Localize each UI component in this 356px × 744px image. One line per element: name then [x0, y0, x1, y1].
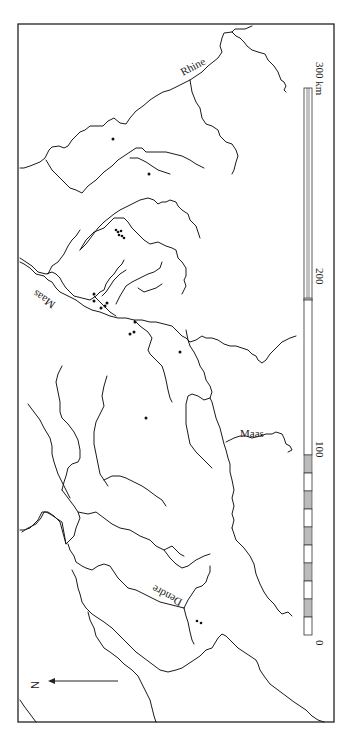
river-west-main — [20, 490, 80, 544]
site-dot — [118, 234, 121, 237]
site-dot — [133, 331, 136, 334]
site-dot — [93, 300, 96, 303]
river-dendre-upper — [184, 566, 210, 608]
site-dot — [134, 321, 137, 324]
river-lower-a-branch — [164, 550, 210, 568]
scale-segment-100-200 — [304, 300, 312, 455]
site-dot — [93, 293, 96, 296]
north-label: N — [29, 681, 41, 689]
river-tributary-c — [138, 284, 162, 292]
site-dot — [112, 138, 115, 141]
river-north-inner — [80, 218, 186, 294]
scale-label-200: 200 — [314, 268, 326, 285]
river-trunk-side — [186, 394, 212, 468]
scale-segment — [304, 599, 312, 617]
site-dot — [104, 305, 107, 308]
scale-segment — [304, 473, 312, 491]
site-dot — [196, 620, 199, 623]
scale-label-100: 100 — [314, 441, 326, 458]
river-maas-trunk — [186, 330, 234, 528]
river-west-a — [56, 366, 80, 490]
site-dot — [200, 622, 203, 625]
scale-label-0: 0 — [314, 640, 326, 646]
north-arrow: N — [29, 678, 118, 689]
scale-segment — [304, 527, 312, 545]
site-dot — [179, 351, 182, 354]
river-maas-upper — [20, 262, 296, 363]
site-markers — [93, 138, 203, 625]
river-lower-d — [88, 612, 156, 722]
label-maas-lower: Maas — [240, 427, 264, 439]
river-rhine-lower — [46, 148, 204, 193]
scale-segment — [304, 491, 312, 509]
river-north-stream — [48, 230, 80, 274]
map-frame — [18, 24, 334, 722]
scale-bar: 0 100 200 300 km — [304, 62, 326, 646]
site-dot — [106, 302, 109, 305]
site-dot — [121, 235, 124, 238]
river-rhine-tributary — [190, 80, 238, 174]
river-tributary-d — [134, 320, 172, 402]
river-maas-lower — [232, 528, 292, 616]
site-dot — [100, 307, 103, 310]
river-lower-c — [72, 570, 324, 722]
scale-segment-200-300 — [304, 88, 312, 300]
site-dot — [145, 417, 148, 420]
label-rhine: Rhine — [178, 55, 207, 78]
scale-label-300-km: 300 km — [314, 62, 326, 96]
site-dot — [115, 229, 118, 232]
river-tributary-b — [116, 262, 162, 304]
river-corner — [20, 700, 36, 722]
river-dendre — [184, 608, 194, 644]
site-dot — [129, 333, 132, 336]
scale-segment — [304, 581, 312, 599]
river-rhine — [20, 26, 252, 168]
map-canvas: Rhine Maas Maas Dendre 0 100 200 300 km … — [0, 0, 356, 744]
site-dot — [117, 231, 120, 234]
river-rhine-upper-branch — [232, 32, 286, 92]
label-maas-upper: Maas — [31, 288, 57, 311]
site-dot — [123, 237, 126, 240]
label-dendre: Dendre — [150, 583, 184, 609]
scale-segment — [304, 617, 312, 635]
river-north-outer — [80, 198, 200, 250]
river-rhine-lower-branch — [130, 158, 170, 174]
river-lower-a — [78, 512, 184, 556]
north-arrowhead-icon — [48, 678, 55, 684]
river-west-main-double — [22, 512, 66, 544]
scale-segment — [304, 545, 312, 563]
river-west-c — [94, 376, 108, 486]
scale-segment — [304, 509, 312, 527]
scale-segment — [304, 563, 312, 581]
scale-segment — [304, 455, 312, 473]
river-west-confluence — [104, 476, 166, 506]
site-dot — [120, 230, 123, 233]
site-dot — [148, 173, 151, 176]
